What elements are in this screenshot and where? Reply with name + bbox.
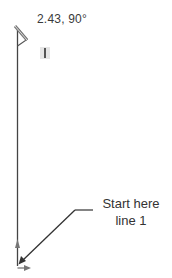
axis-arrow-right-icon — [18, 265, 32, 271]
callout-line-2: line 1 — [96, 212, 166, 229]
callout-line-1: Start here — [96, 195, 166, 212]
dimension-readout: 2.43, 90° — [37, 12, 87, 26]
sketch-canvas[interactable] — [0, 0, 172, 278]
text-cursor-icon — [40, 47, 50, 59]
text-cursor-bar — [44, 48, 46, 58]
pencil-cursor-icon — [15, 26, 27, 46]
start-here-callout: Start here line 1 — [96, 195, 166, 229]
callout-leader-line — [19, 210, 94, 265]
axis-arrow-up-icon — [15, 239, 20, 248]
